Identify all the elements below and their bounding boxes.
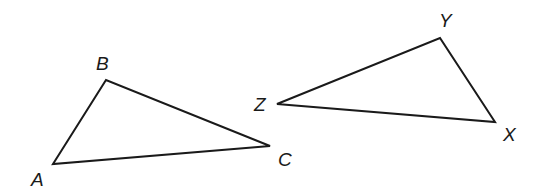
vertex-label-x: X (502, 124, 517, 145)
triangle-xyz (277, 38, 495, 122)
vertex-label-z: Z (253, 94, 267, 115)
vertex-label-b: B (96, 53, 109, 74)
vertex-label-a: A (30, 169, 44, 190)
vertex-label-c: C (278, 149, 292, 170)
vertex-label-y: Y (439, 10, 453, 31)
triangle-abc (53, 80, 270, 164)
congruent-triangles-diagram: A B C X Y Z (0, 0, 536, 192)
